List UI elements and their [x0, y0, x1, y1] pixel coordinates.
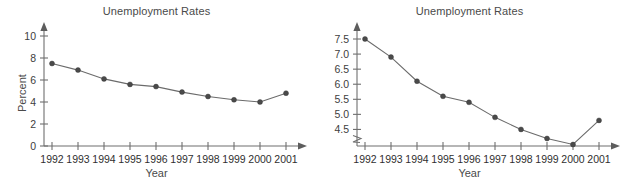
y-tick-label: 5.0: [334, 108, 349, 120]
y-tick-label: 7.5: [334, 33, 349, 45]
data-point-marker: [415, 79, 420, 84]
x-tick-label: 1996: [457, 153, 481, 165]
data-point-marker: [284, 91, 289, 96]
x-tick-label: 1992: [40, 153, 64, 165]
y-tick-label: 5.5: [334, 93, 349, 105]
x-tick-label: 2000: [248, 153, 272, 165]
x-axis-arrow-icon: [298, 142, 307, 149]
y-tick-label: 4: [30, 96, 36, 108]
data-series-line: [52, 64, 286, 103]
y-tick-label: 4.5: [334, 123, 349, 135]
x-tick-label: 1992: [353, 153, 377, 165]
data-series-line: [365, 39, 599, 144]
data-point-marker: [180, 90, 185, 95]
data-point-marker: [76, 68, 81, 73]
data-point-marker: [519, 127, 524, 132]
data-point-marker: [363, 37, 368, 42]
y-tick-label: 7.0: [334, 48, 349, 60]
x-tick-label: 2001: [587, 153, 611, 165]
x-tick-label: 1998: [196, 153, 220, 165]
x-tick-label: 1999: [222, 153, 246, 165]
data-point-marker: [441, 94, 446, 99]
y-tick-label: 6: [30, 74, 36, 86]
data-point-marker: [571, 142, 576, 147]
x-tick-label: 1994: [92, 153, 116, 165]
data-point-marker: [493, 115, 498, 120]
x-tick-label: 1994: [405, 153, 429, 165]
y-tick-label: 6.0: [334, 78, 349, 90]
y-tick-label: 0: [30, 140, 36, 152]
data-point-marker: [206, 94, 211, 99]
y-tick-label: 10: [24, 30, 36, 42]
chart-panel-right: Unemployment Rates Percent Year 4.55.05.…: [313, 0, 626, 183]
x-tick-label: 1993: [66, 153, 90, 165]
x-axis-arrow-icon: [611, 142, 620, 149]
x-tick-label: 1995: [118, 153, 142, 165]
data-point-marker: [389, 55, 394, 60]
x-tick-label: 1999: [535, 153, 559, 165]
data-point-marker: [154, 84, 159, 89]
data-point-marker: [597, 118, 602, 123]
x-tick-label: 1997: [170, 153, 194, 165]
data-point-marker: [50, 61, 55, 66]
data-point-marker: [545, 136, 550, 141]
y-axis-arrow-icon: [40, 22, 47, 31]
x-tick-label: 1995: [431, 153, 455, 165]
y-tick-label: 6.5: [334, 63, 349, 75]
x-tick-label: 1996: [144, 153, 168, 165]
data-point-marker: [232, 97, 237, 102]
data-point-marker: [102, 76, 107, 81]
data-point-marker: [467, 100, 472, 105]
data-point-marker: [128, 82, 133, 87]
x-tick-label: 2001: [274, 153, 298, 165]
y-tick-label: 8: [30, 52, 36, 64]
chart-panel-left: Unemployment Rates Percent Year 02468101…: [0, 0, 313, 183]
data-point-marker: [258, 100, 263, 105]
plot-area-right: 4.55.05.56.06.57.07.51992199319941995199…: [313, 0, 626, 183]
two-panel-line-chart-figure: Unemployment Rates Percent Year 02468101…: [0, 0, 626, 183]
x-tick-label: 2000: [561, 153, 585, 165]
x-tick-label: 1998: [509, 153, 533, 165]
x-tick-label: 1997: [483, 153, 507, 165]
y-tick-label: 2: [30, 118, 36, 130]
plot-area-left: 0246810199219931994199519961997199819992…: [0, 0, 313, 183]
x-tick-label: 1993: [379, 153, 403, 165]
y-axis-arrow-icon: [353, 22, 360, 31]
